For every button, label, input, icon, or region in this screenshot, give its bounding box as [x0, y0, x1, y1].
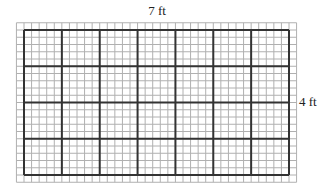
grid-diagram: 7 ft 4 ft: [0, 0, 326, 188]
width-label: 7 ft: [148, 3, 166, 18]
height-label: 4 ft: [299, 94, 317, 109]
